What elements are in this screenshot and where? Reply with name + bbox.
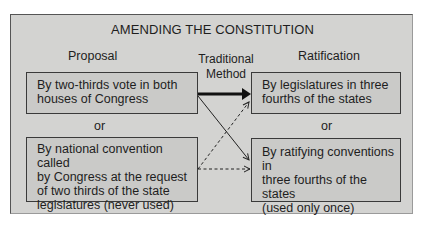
connector-arrows — [0, 0, 425, 226]
arrow-congress-to-conventions — [198, 96, 249, 160]
arrow-convention-to-legislatures — [198, 102, 249, 169]
traditional-arrow — [198, 88, 251, 100]
